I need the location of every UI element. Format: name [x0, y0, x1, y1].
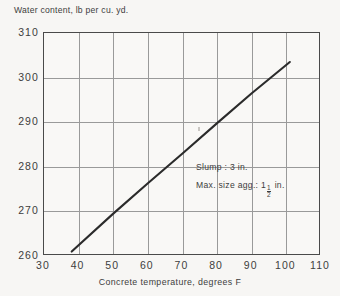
annotation-fraction: 12 [267, 185, 272, 199]
x-axis-title: Concrete temperature, degrees F [0, 277, 340, 287]
chart-figure: Water content, lb per cu. yd. 2602702802… [0, 0, 340, 296]
y-tick-label: 300 [5, 71, 39, 83]
annotation-max-size-unit: in. [275, 180, 285, 190]
y-tick-label: 280 [5, 160, 39, 172]
annotation-max-size: Max. size agg.: 112 in. [196, 181, 285, 199]
x-axis-tick-labels: 30405060708090100110 [43, 259, 320, 275]
y-tick-label: 310 [5, 26, 39, 38]
chart-annotations: Slump : 3 in. Max. size agg.: 112 in. [196, 163, 285, 208]
y-axis-title: Water content, lb per cu. yd. [14, 5, 128, 15]
annotation-max-size-whole: 1 [261, 180, 266, 190]
y-axis-tick-labels: 260270280290300310 [0, 32, 39, 255]
x-tick-label: 110 [300, 259, 340, 271]
y-tick-label: 290 [5, 115, 39, 127]
y-tick-label: 270 [5, 204, 39, 216]
data-line-svg [44, 33, 321, 256]
data-series-line [72, 62, 290, 252]
annotation-max-size-prefix: Max. size agg.: [196, 180, 258, 190]
annotation-slump: Slump : 3 in. [196, 163, 285, 172]
scan-artifact-speck [198, 127, 200, 131]
plot-area [43, 32, 320, 255]
fraction-denominator: 2 [267, 191, 272, 198]
